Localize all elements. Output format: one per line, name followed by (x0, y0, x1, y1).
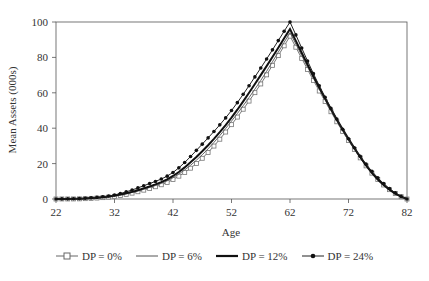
legend-item-dp-12: DP = 12% (216, 250, 288, 262)
data-marker (195, 149, 199, 153)
data-marker (358, 154, 362, 158)
series-lines (54, 20, 409, 201)
data-marker (206, 150, 210, 154)
data-marker (212, 130, 216, 134)
data-marker (241, 93, 245, 97)
y-tick-label: 60 (37, 87, 49, 99)
data-marker (399, 195, 403, 199)
data-marker (160, 177, 164, 181)
data-marker (230, 109, 234, 113)
legend: DP = 0% DP = 6% DP = 12% DP = 24% (0, 250, 429, 262)
thin-line-icon (136, 251, 158, 261)
data-marker (165, 174, 169, 178)
data-marker (78, 197, 82, 201)
data-marker (154, 180, 158, 184)
data-marker (335, 117, 339, 121)
data-marker (72, 197, 76, 201)
legend-item-dp-6: DP = 6% (136, 250, 202, 262)
data-marker (323, 95, 327, 99)
open-square-marker-icon (56, 251, 78, 261)
data-marker (224, 116, 228, 120)
data-marker (194, 162, 198, 166)
data-marker (277, 39, 281, 43)
data-marker (388, 187, 392, 191)
data-marker (183, 161, 187, 165)
data-marker (370, 170, 374, 174)
data-marker (189, 155, 193, 159)
data-marker (282, 29, 286, 33)
data-marker (200, 156, 204, 160)
legend-label: DP = 24% (328, 250, 374, 262)
x-tick-label: 42 (168, 206, 179, 218)
y-tick-label: 100 (32, 16, 49, 28)
thick-line-icon (216, 251, 238, 261)
data-marker (341, 127, 345, 131)
x-tick-label: 22 (51, 206, 62, 218)
x-tick-label: 62 (285, 206, 296, 218)
data-marker (101, 195, 105, 199)
axes: 02040608010022324252627282 (32, 16, 413, 218)
x-axis-title: Age (222, 226, 240, 238)
data-marker (142, 184, 146, 188)
data-marker (405, 197, 409, 201)
data-marker (95, 196, 99, 200)
legend-item-dp-0: DP = 0% (56, 250, 122, 262)
data-marker (312, 72, 316, 76)
data-marker (236, 101, 240, 105)
data-marker (353, 146, 357, 150)
data-marker (300, 46, 304, 50)
data-marker (376, 176, 380, 180)
y-tick-label: 20 (37, 158, 49, 170)
data-marker (89, 196, 93, 200)
data-marker (148, 182, 152, 186)
filled-dot-marker-icon (302, 251, 324, 261)
data-marker (253, 75, 257, 79)
data-marker (247, 84, 251, 88)
data-marker (177, 166, 181, 170)
y-axis-title: Mean Assets (000s) (6, 66, 19, 153)
x-tick-label: 32 (109, 206, 120, 218)
x-tick-label: 82 (402, 206, 413, 218)
data-marker (259, 66, 263, 70)
legend-label: DP = 0% (82, 250, 122, 262)
legend-item-dp-24: DP = 24% (302, 250, 374, 262)
x-tick-label: 52 (226, 206, 237, 218)
data-marker (206, 136, 210, 140)
series-line (56, 33, 407, 199)
data-marker (329, 107, 333, 111)
data-marker (200, 142, 204, 146)
data-marker (218, 123, 222, 127)
data-marker (382, 182, 386, 186)
data-marker (60, 197, 64, 201)
data-marker (294, 33, 298, 37)
legend-label: DP = 6% (162, 250, 202, 262)
data-marker (66, 197, 70, 201)
data-marker (124, 190, 128, 194)
data-marker (54, 197, 58, 201)
data-marker (306, 59, 310, 63)
data-marker (317, 84, 321, 88)
y-tick-label: 40 (37, 122, 49, 134)
data-marker (364, 162, 368, 166)
data-marker (394, 191, 398, 195)
legend-label: DP = 12% (242, 250, 288, 262)
data-marker (136, 186, 140, 190)
data-marker (83, 196, 87, 200)
y-tick-label: 0 (43, 193, 49, 205)
data-marker (347, 137, 351, 141)
data-marker (265, 57, 269, 61)
y-tick-label: 80 (37, 51, 49, 63)
data-marker (171, 171, 175, 175)
data-marker (113, 193, 117, 197)
data-marker (107, 194, 111, 198)
data-marker (288, 20, 292, 24)
data-marker (119, 192, 123, 196)
x-tick-label: 72 (343, 206, 354, 218)
data-marker (271, 48, 275, 52)
series-line (56, 29, 407, 199)
data-marker (130, 188, 134, 192)
chart: 02040608010022324252627282 Mean Assets (… (0, 0, 429, 281)
